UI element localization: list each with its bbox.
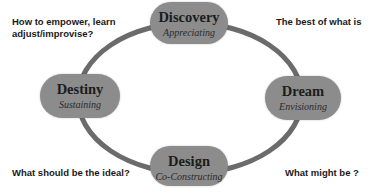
stage-subtitle: Co-Constructing — [150, 171, 228, 183]
stage-title: Discovery — [150, 9, 228, 25]
stage-title: Destiny — [40, 81, 120, 97]
note-line: How to empower, learn — [12, 16, 115, 28]
note-top-left: How to empower, learn adjust/improvise? — [12, 16, 115, 40]
stage-subtitle: Sustaining — [40, 99, 120, 111]
stage-destiny: Destiny Sustaining — [40, 74, 120, 118]
stage-subtitle: Appreciating — [150, 27, 228, 39]
note-top-right: The best of what is — [276, 16, 362, 28]
note-line: adjust/improvise? — [12, 28, 115, 40]
stage-title: Design — [150, 153, 228, 169]
stage-title: Dream — [265, 83, 341, 99]
stage-subtitle: Envisioning — [265, 101, 341, 113]
stage-dream: Dream Envisioning — [265, 76, 341, 120]
stage-discovery: Discovery Appreciating — [150, 2, 228, 44]
note-bottom-right: What might be ? — [285, 167, 359, 179]
stage-design: Design Co-Constructing — [150, 146, 228, 186]
note-bottom-left: What should be the ideal? — [12, 167, 130, 179]
